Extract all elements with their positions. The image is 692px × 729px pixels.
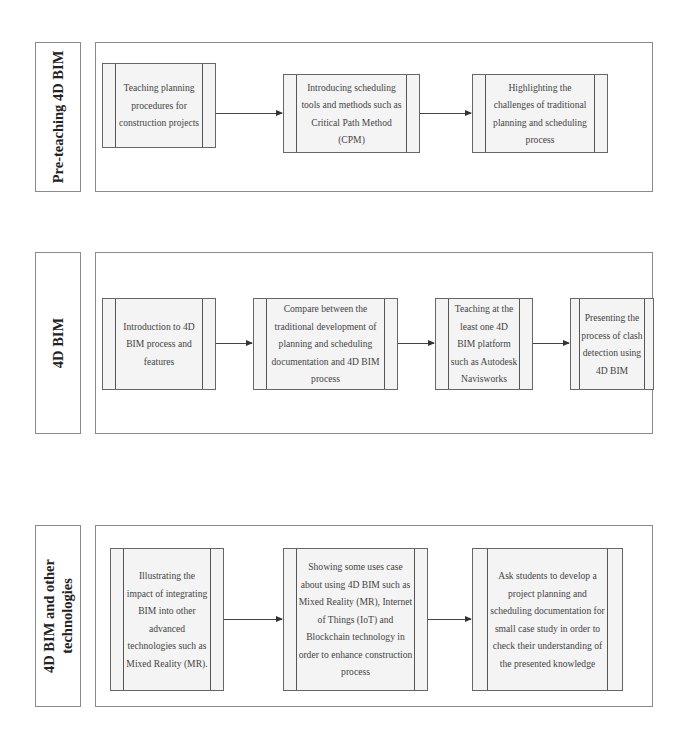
process-step-1-3: Highlighting the challenges of tradition…: [472, 74, 608, 153]
process-side-bar: [284, 75, 297, 152]
process-step-1-1: Teaching planning procedures for constru…: [102, 63, 216, 148]
process-step-2-1: Introduction to 4D BIM process and featu…: [102, 298, 216, 390]
section-title-4d-bim: 4D BIM: [49, 318, 67, 368]
flow-arrow: [216, 343, 252, 344]
process-side-bar: [254, 299, 267, 389]
process-side-bar: [103, 64, 116, 147]
section-title-pre-teaching: Pre-teaching 4D BIM: [49, 51, 67, 184]
section-title-4d-bim-other-tech: 4D BIM and other technologies: [40, 546, 76, 686]
process-step-text: Teaching planning procedures for constru…: [116, 64, 202, 147]
process-side-bar: [473, 549, 488, 690]
process-side-bar: [103, 299, 116, 389]
process-step-3-1: Illustrating the impact of integrating B…: [110, 548, 224, 691]
flow-arrow: [398, 343, 434, 344]
process-side-bar: [594, 75, 607, 152]
process-step-3-3: Ask students to develop a project planni…: [472, 548, 623, 691]
flow-arrow: [420, 113, 471, 114]
process-step-text: Introduction to 4D BIM process and featu…: [116, 299, 202, 389]
process-side-bar: [284, 549, 297, 690]
process-side-bar: [406, 75, 419, 152]
process-step-1-2: Introducing scheduling tools and methods…: [283, 74, 420, 153]
process-step-text: Compare between the traditional developm…: [267, 299, 384, 389]
flow-arrow: [216, 113, 282, 114]
process-side-bar: [384, 299, 397, 389]
section-label-pre-teaching: Pre-teaching 4D BIM: [35, 42, 81, 192]
process-step-3-2: Showing some uses case about using 4D BI…: [283, 548, 428, 691]
process-step-text: Presenting the process of clash detectio…: [580, 299, 644, 389]
process-side-bar: [202, 64, 215, 147]
flow-arrow: [533, 343, 569, 344]
process-side-bar: [414, 549, 427, 690]
process-step-text: Teaching at the least one 4D BIM platfor…: [449, 299, 519, 389]
process-step-text: Introducing scheduling tools and methods…: [297, 75, 406, 152]
process-side-bar: [644, 299, 653, 389]
process-side-bar: [202, 299, 215, 389]
process-step-text: Highlighting the challenges of tradition…: [486, 75, 594, 152]
process-step-text: Illustrating the impact of integrating B…: [124, 549, 210, 690]
process-step-text: Ask students to develop a project planni…: [488, 549, 607, 690]
process-side-bar: [436, 299, 449, 389]
process-side-bar: [571, 299, 580, 389]
process-side-bar: [111, 549, 124, 690]
section-label-4d-bim: 4D BIM: [35, 252, 81, 434]
section-label-4d-bim-other-tech: 4D BIM and other technologies: [35, 525, 81, 707]
process-step-2-3: Teaching at the least one 4D BIM platfor…: [435, 298, 533, 390]
process-step-2-4: Presenting the process of clash detectio…: [570, 298, 654, 390]
process-step-text: Showing some uses case about using 4D BI…: [297, 549, 414, 690]
process-step-2-2: Compare between the traditional developm…: [253, 298, 398, 390]
process-side-bar: [607, 549, 622, 690]
flow-arrow: [224, 619, 282, 620]
process-side-bar: [519, 299, 532, 389]
flow-arrow: [428, 619, 471, 620]
process-side-bar: [210, 549, 223, 690]
process-side-bar: [473, 75, 486, 152]
